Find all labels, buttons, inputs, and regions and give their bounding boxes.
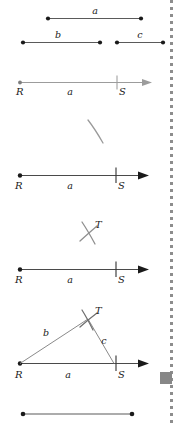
segment-b-endpoint-left [21,40,25,44]
label-c-given: c [137,29,143,40]
point-R-dot-solid [18,173,22,177]
step-ray-faded: R S a [15,76,152,98]
label-b-triangle: b [43,327,49,338]
segment-b-given [21,40,102,44]
step-bottom-segment [21,412,135,417]
step-ray-solid: R S a [14,168,149,192]
label-a-triangle: a [65,369,71,380]
label-c-triangle: c [101,335,107,346]
ray-arrowhead-solid-2 [138,266,149,274]
point-R-dot-solid-2 [18,267,22,271]
step-ray-solid-2: R S a [14,262,149,286]
segment-a-endpoint-right [139,16,143,20]
bottom-segment-endpoint-right [130,412,135,417]
segment-c-endpoint-left [115,40,119,44]
step-triangle-rst: T b c a R S [14,305,149,380]
label-S-solid-2: S [118,274,125,285]
ray-arrowhead-triangle [138,360,149,368]
geometry-construction-figure: a b c R S a [0,0,183,424]
label-S-faded: S [119,86,126,97]
ray-arrowhead-faded [142,79,152,86]
label-a-given: a [92,5,98,16]
label-b-given: b [55,29,61,40]
triangle-side-b [20,319,88,364]
gray-square-marker [160,372,172,384]
label-a-ray-faded: a [67,86,73,97]
ray-arrowhead-solid [138,172,149,180]
step-arcs-cross: T [80,219,103,244]
label-S-solid: S [118,180,125,191]
arc-stroke-b [88,120,103,143]
label-R-faded: R [15,86,24,97]
label-R-solid: R [14,180,23,191]
segment-c-endpoint-right [161,40,165,44]
dotted-vertical-rule [170,0,173,424]
step-arc-b [88,120,103,143]
point-R-dot-faded [18,81,22,85]
segment-b-endpoint-right [98,40,102,44]
label-R-solid-2: R [14,274,23,285]
figure-canvas: a b c R S a [0,0,183,424]
label-R-triangle: R [14,369,23,380]
bottom-segment-endpoint-left [21,412,26,417]
label-T-triangle: T [95,305,103,316]
label-a-ray-solid-2: a [67,274,73,285]
label-T-arcs: T [95,219,103,230]
label-S-triangle: S [118,369,125,380]
step-given-segments: a b c [21,5,165,45]
segment-a-given [46,16,143,20]
segment-c-given [115,40,165,44]
label-a-ray-solid: a [67,180,73,191]
segment-a-endpoint-left [46,16,50,20]
